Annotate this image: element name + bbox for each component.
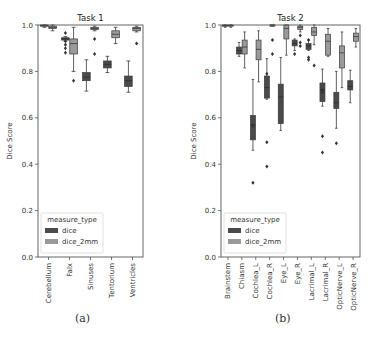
outlier-marker [64,43,67,47]
outlier-marker [307,38,310,42]
x-tick-label: Ventricles [129,263,137,298]
box-dice_2mm-chiasm [242,32,247,68]
box-dice_2mm-falx [70,27,78,82]
y-axis-label: Dice Score [190,122,198,159]
box-dice_2mm-tentorium [112,27,120,43]
box-dice_2mm-cochlea_l [256,31,261,82]
box-dice-opticnerve_r [348,70,353,102]
y-tick-label: 0.0 [205,254,216,262]
outlier-marker [135,42,138,46]
box-dice-eye_r [292,39,297,56]
box-dice-lacrimal_r [320,69,325,155]
outlier-marker [271,38,274,42]
box-dice-chiasm [237,42,242,56]
chart-panel-2: Task 20.00.20.40.60.81.0Dice ScoreBrains… [190,13,360,311]
x-tick-label: Tentorium [108,263,116,299]
legend-swatch-dice_2mm [45,239,58,244]
outlier-marker [64,46,67,50]
chart-title: Task 1 [76,13,103,23]
chart-title: Task 2 [276,13,303,23]
y-tick-label: 0.2 [22,207,33,215]
x-tick-label: Falx [66,263,74,277]
legend-label-dice_2mm: dice_2mm [245,238,281,246]
y-tick-label: 0.8 [22,68,33,76]
box-dice_2mm-eye_l [284,25,289,55]
y-tick-label: 0.4 [22,161,34,169]
x-tick-label: Lacrimal_R [322,263,330,301]
legend-swatch-dice_2mm [228,239,241,244]
box-dice-ventricles [125,61,133,92]
outlier-marker [93,37,96,41]
outlier-marker [335,141,338,145]
legend-swatch-dice [45,228,58,233]
outlier-marker [313,64,316,68]
legend-title: measure_type [47,216,97,224]
y-tick-label: 0.8 [205,68,216,76]
box-dice-opticnerve_l [334,71,339,145]
legend-swatch-dice [228,228,241,233]
box-dice_2mm-lacrimal_r [326,28,331,56]
y-tick-label: 1.0 [22,22,33,30]
outlier-marker [64,51,67,55]
y-tick-label: 0.0 [22,254,33,262]
outlier-marker [321,151,324,155]
outlier-marker [293,52,296,56]
outlier-marker [265,165,268,169]
caption-b: (b) [275,312,291,325]
x-tick-label: Chiasm [238,263,246,289]
x-tick-label: Cochlea_R [266,263,274,299]
box-dice-lacrimal_l [306,38,311,62]
x-tick-label: Lacrimal_L [308,263,316,300]
outlier-marker [271,52,274,56]
box-dice_2mm-opticnerve_l [339,32,344,88]
legend-label-dice: dice [62,227,77,235]
outlier-marker [93,52,96,56]
x-tick-label: OpticNerve_R [350,263,358,311]
box-dice_2mm-cochlea_r [270,25,275,56]
legend-title: measure_type [230,216,280,224]
y-tick-label: 0.2 [205,207,216,215]
outlier-marker [299,40,302,44]
x-tick-label: Cochlea_L [252,263,260,298]
figure: Task 10.00.20.40.60.81.0Dice ScoreCerebe… [0,0,376,342]
box-dice-cochlea_r [264,59,269,169]
legend: measure_typedicedice_2mm [41,213,103,253]
outlier-marker [265,140,268,144]
outlier-marker [72,79,75,83]
outlier-marker [321,134,324,138]
x-tick-label: Eye_R [294,263,302,284]
x-tick-label: OpticNerve_L [336,263,344,310]
box-dice-sinuses [83,60,91,91]
outlier-marker [251,181,254,185]
box-dice_2mm-opticnerve_r [353,28,358,47]
box-dice_2mm-cerebellum [49,25,57,31]
caption-a: (a) [75,312,90,325]
x-tick-label: Eye_L [280,263,288,283]
y-tick-label: 0.4 [205,161,217,169]
box-dice_2mm-sinuses [91,26,99,56]
outlier-marker [64,31,67,35]
legend: measure_typedicedice_2mm [224,213,286,253]
x-tick-label: Sinuses [87,263,95,290]
box-dice-falx [62,31,70,55]
chart-panel-1: Task 10.00.20.40.60.81.0Dice ScoreCerebe… [6,13,143,303]
box-dice_2mm-lacrimal_l [312,25,317,68]
box-dice-eye_l [278,57,283,130]
y-axis-label: Dice Score [6,122,14,159]
legend-label-dice_2mm: dice_2mm [62,238,98,246]
y-tick-label: 0.6 [205,114,217,122]
x-tick-label: Cerebellum [45,263,53,303]
box-dice_2mm-ventricles [133,26,141,45]
outlier-marker [299,44,302,48]
outlier-marker [307,58,310,62]
outlier-marker [265,72,268,76]
box-dice-tentorium [104,56,112,72]
y-tick-label: 1.0 [205,22,216,30]
outlier-marker [299,33,302,37]
y-tick-label: 0.6 [22,114,34,122]
legend-label-dice: dice [245,227,260,235]
box-dice-cochlea_l [250,80,255,185]
x-tick-label: Brainstem [224,263,232,299]
box-dice_2mm-eye_r [298,25,303,48]
